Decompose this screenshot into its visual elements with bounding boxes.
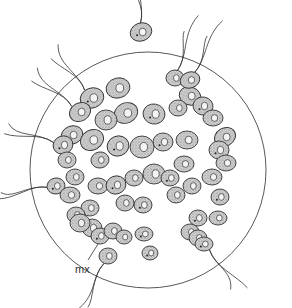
matrix-label-leader-line bbox=[0, 0, 292, 308]
